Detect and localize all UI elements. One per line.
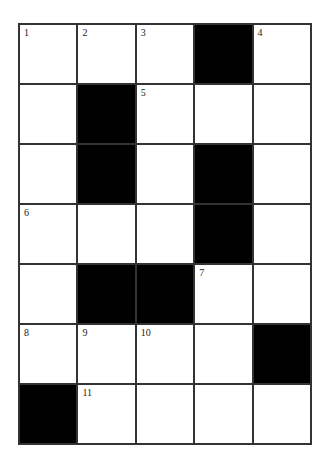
crossword-cell[interactable]: 6 bbox=[19, 204, 77, 264]
clue-number: 6 bbox=[24, 208, 29, 218]
crossword-cell[interactable]: 10 bbox=[136, 324, 194, 384]
crossword-cell[interactable] bbox=[19, 84, 77, 144]
crossword-cell[interactable] bbox=[194, 384, 252, 444]
crossword-cell[interactable] bbox=[77, 204, 135, 264]
clue-number: 11 bbox=[82, 388, 92, 398]
black-square bbox=[77, 144, 135, 204]
crossword-cell[interactable] bbox=[253, 144, 311, 204]
crossword-cell[interactable] bbox=[194, 324, 252, 384]
crossword-cell[interactable] bbox=[19, 264, 77, 324]
crossword-grid: 1234567891011 bbox=[18, 23, 312, 445]
clue-number: 5 bbox=[141, 88, 146, 98]
crossword-cell[interactable] bbox=[194, 84, 252, 144]
crossword-cell[interactable] bbox=[136, 204, 194, 264]
black-square bbox=[194, 144, 252, 204]
crossword-cell[interactable]: 4 bbox=[253, 24, 311, 84]
clue-number: 3 bbox=[141, 28, 146, 38]
black-square bbox=[77, 264, 135, 324]
clue-number: 10 bbox=[141, 328, 151, 338]
clue-number: 8 bbox=[24, 328, 29, 338]
crossword-cell[interactable] bbox=[253, 84, 311, 144]
crossword-cell[interactable] bbox=[253, 264, 311, 324]
crossword-cell[interactable]: 1 bbox=[19, 24, 77, 84]
crossword-cell[interactable] bbox=[19, 144, 77, 204]
clue-number: 1 bbox=[24, 28, 29, 38]
crossword-cell[interactable]: 11 bbox=[77, 384, 135, 444]
clue-number: 2 bbox=[82, 28, 87, 38]
crossword-cell[interactable]: 8 bbox=[19, 324, 77, 384]
crossword-cell[interactable]: 3 bbox=[136, 24, 194, 84]
crossword-cell[interactable] bbox=[136, 384, 194, 444]
black-square bbox=[253, 324, 311, 384]
clue-number: 4 bbox=[258, 28, 263, 38]
crossword-cell[interactable]: 5 bbox=[136, 84, 194, 144]
clue-number: 7 bbox=[199, 268, 204, 278]
crossword-cell[interactable]: 2 bbox=[77, 24, 135, 84]
crossword-cell[interactable]: 7 bbox=[194, 264, 252, 324]
black-square bbox=[19, 384, 77, 444]
black-square bbox=[136, 264, 194, 324]
black-square bbox=[194, 24, 252, 84]
black-square bbox=[194, 204, 252, 264]
black-square bbox=[77, 84, 135, 144]
crossword-cell[interactable] bbox=[253, 204, 311, 264]
crossword-cell[interactable]: 9 bbox=[77, 324, 135, 384]
crossword-cell[interactable] bbox=[253, 384, 311, 444]
clue-number: 9 bbox=[82, 328, 87, 338]
crossword-cell[interactable] bbox=[136, 144, 194, 204]
